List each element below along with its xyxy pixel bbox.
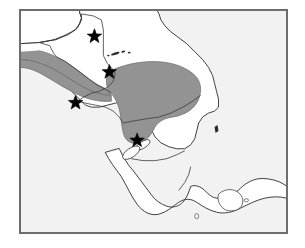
map-frame bbox=[19, 9, 288, 234]
figure-distribution-map bbox=[0, 0, 305, 248]
bay-island-3 bbox=[128, 52, 131, 54]
bay-island-4 bbox=[107, 55, 109, 57]
map-canvas bbox=[20, 10, 287, 233]
island-panama-1 bbox=[244, 199, 248, 202]
island-panama-2 bbox=[195, 214, 199, 219]
